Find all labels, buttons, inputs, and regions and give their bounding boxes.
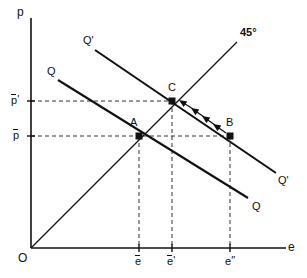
label-45-degree: 45° <box>240 27 257 38</box>
point-B <box>227 133 234 140</box>
x-tick-label-e-bar: e <box>135 256 141 267</box>
x-tick-label-e-bar-prime: e' <box>167 256 175 267</box>
point-A <box>136 133 143 140</box>
diagram-canvas <box>0 0 307 278</box>
economics-diagram: p e O p' p e e' e″ 45° Q Q Q' Q' A C B <box>0 0 307 278</box>
label-point-A: A <box>130 117 137 128</box>
adjustment-arrow-4 <box>182 102 193 109</box>
origin-label: O <box>18 252 27 264</box>
curve-Q-prime <box>95 50 276 173</box>
x-tick-label-e-double-prime: e″ <box>225 256 235 267</box>
label-curve-Q-prime-left: Q' <box>83 35 94 46</box>
adjustment-arrows <box>182 102 226 133</box>
label-point-B: B <box>226 117 233 128</box>
label-curve-Q-prime-right: Q' <box>278 175 289 186</box>
adjustment-arrow-1 <box>216 126 226 133</box>
adjustment-arrow-2 <box>205 118 215 125</box>
curve-Q <box>58 80 248 198</box>
label-point-C: C <box>168 82 176 93</box>
label-curve-Q-left: Q <box>47 66 56 77</box>
y-axis-label: p <box>17 6 24 18</box>
point-C <box>169 98 176 105</box>
axes <box>31 18 286 248</box>
x-axis-label: e <box>288 241 295 253</box>
y-tick-label-p-bar-prime: p' <box>11 95 19 106</box>
line-45-degree <box>31 42 237 248</box>
adjustment-arrow-3 <box>194 110 204 117</box>
y-tick-label-p-bar: p <box>13 130 19 141</box>
label-curve-Q-right: Q <box>252 201 261 212</box>
